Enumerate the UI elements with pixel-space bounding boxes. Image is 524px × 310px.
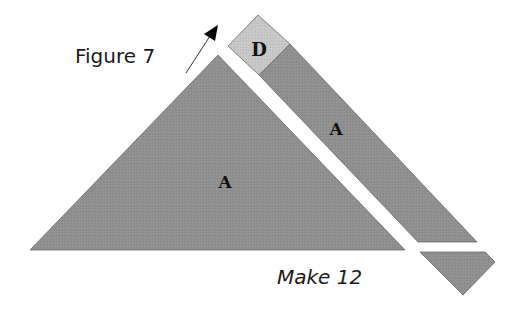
large-triangle-label: A — [217, 172, 232, 192]
diagram-svg: A A D Figure 7 Make 12 — [0, 0, 524, 310]
corner-square-label: D — [251, 39, 267, 60]
figure-title: Figure 7 — [75, 44, 155, 68]
quilt-diagram: A A D Figure 7 Make 12 — [0, 0, 524, 310]
figure-caption: Make 12 — [277, 265, 362, 289]
strip-label: A — [328, 119, 343, 139]
trim-triangle-piece — [420, 252, 495, 295]
